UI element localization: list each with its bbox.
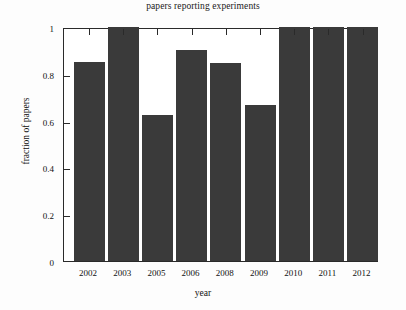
- bar-2002: [74, 62, 105, 261]
- bar-2005: [142, 115, 173, 261]
- x-tick: [328, 29, 329, 35]
- y-tick: [64, 76, 70, 77]
- x-tick: [89, 29, 90, 35]
- x-tick-label-2008: 2008: [216, 268, 234, 278]
- y-tick-label-0.2: 0.2: [43, 211, 54, 221]
- bar-2012: [347, 27, 378, 261]
- x-tick-label-2010: 2010: [284, 268, 302, 278]
- x-tick: [192, 29, 193, 35]
- x-tick: [157, 29, 158, 35]
- bar-2011: [313, 27, 344, 261]
- y-axis-title: fraction of papers: [21, 98, 31, 165]
- bar-2003: [108, 27, 139, 261]
- x-tick-label-2003: 2003: [113, 268, 131, 278]
- y-tick-label-0.4: 0.4: [43, 164, 54, 174]
- y-tick-label-0: 0: [50, 258, 55, 268]
- x-tick-label-2002: 2002: [79, 268, 97, 278]
- x-tick: [123, 29, 124, 35]
- y-tick-label-0.8: 0.8: [43, 71, 54, 81]
- chart-figure: papers reporting experiments fraction of…: [0, 0, 406, 310]
- x-tick-label-2006: 2006: [182, 268, 200, 278]
- bar-series: [64, 29, 377, 261]
- x-tick: [294, 29, 295, 35]
- x-tick-label-2009: 2009: [250, 268, 268, 278]
- bar-2008: [210, 63, 241, 261]
- x-tick-label-2011: 2011: [319, 268, 337, 278]
- x-tick-label-2005: 2005: [147, 268, 165, 278]
- bar-2010: [279, 27, 310, 261]
- x-tick: [226, 29, 227, 35]
- x-tick: [363, 29, 364, 35]
- x-axis-title: year: [0, 288, 406, 298]
- y-tick: [64, 216, 70, 217]
- chart-title: papers reporting experiments: [0, 1, 406, 11]
- y-tick: [64, 123, 70, 124]
- y-tick-label-0.6: 0.6: [43, 118, 54, 128]
- y-tick: [64, 169, 70, 170]
- bar-2009: [245, 105, 276, 261]
- y-tick-label-1: 1: [50, 24, 55, 34]
- plot-area: 00.20.40.60.81: [63, 28, 378, 262]
- x-tick-label-2012: 2012: [353, 268, 371, 278]
- bar-2006: [176, 50, 207, 261]
- x-tick: [260, 29, 261, 35]
